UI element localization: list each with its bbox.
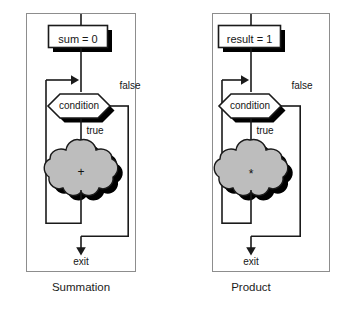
init-box-label-product: result = 1 bbox=[227, 33, 273, 45]
condition-label-product: condition bbox=[230, 100, 270, 111]
panel-frame-product bbox=[213, 14, 330, 272]
caption-summation: Summation bbox=[52, 281, 110, 293]
exit-label-summation: exit bbox=[73, 256, 89, 267]
exit-label-product: exit bbox=[243, 256, 259, 267]
caption-product: Product bbox=[231, 281, 271, 293]
false-label-product: false bbox=[291, 80, 313, 91]
figure-canvas: sum = 0 condition false true + exit Summ… bbox=[0, 0, 343, 314]
condition-label-summation: condition bbox=[59, 100, 99, 111]
panel-summation: sum = 0 condition false true + exit Summ… bbox=[27, 14, 141, 294]
false-label-summation: false bbox=[119, 80, 141, 91]
true-label-summation: true bbox=[86, 125, 104, 136]
operation-symbol-summation: + bbox=[77, 165, 84, 179]
init-box-label-summation: sum = 0 bbox=[58, 33, 97, 45]
panel-product: result = 1 condition false true * exit P… bbox=[213, 14, 330, 294]
true-label-product: true bbox=[256, 125, 274, 136]
operation-symbol-product: * bbox=[249, 167, 254, 181]
